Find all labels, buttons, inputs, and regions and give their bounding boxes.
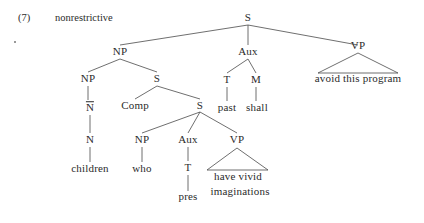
terminal-vp-main: avoid this program — [315, 73, 402, 85]
node-vp-embedded: VP — [230, 134, 244, 146]
terminal-children: children — [71, 163, 109, 175]
node-root-s: S — [245, 12, 251, 24]
terminal-past: past — [218, 102, 237, 114]
node-aux-embedded: Aux — [178, 134, 198, 146]
node-vp-main: VP — [351, 40, 365, 52]
node-np-subject: NP — [113, 46, 127, 58]
terminal-who: who — [132, 163, 152, 175]
node-t-embedded: T — [185, 162, 192, 174]
example-number: (7) — [18, 12, 30, 23]
example-caption: nonrestrictive — [55, 12, 113, 23]
node-s-embedded: S — [197, 100, 203, 112]
node-n-bar: N — [86, 102, 94, 114]
terminal-shall: shall — [246, 102, 268, 114]
node-np-inner: NP — [81, 73, 95, 85]
node-comp: Comp — [121, 100, 149, 112]
node-m-main: M — [251, 74, 261, 86]
node-aux-main: Aux — [238, 46, 258, 58]
node-n-head: N — [86, 134, 94, 146]
syntax-tree-figure: (7) nonrestrictive — [0, 0, 424, 223]
page-speck — [14, 41, 16, 43]
node-t-main: T — [224, 74, 231, 86]
node-np-embedded: NP — [135, 134, 149, 146]
node-s-relative: S — [154, 73, 160, 85]
terminal-vp-embedded-line2: imaginations — [210, 186, 269, 198]
terminal-vp-embedded-line1: have vivid — [214, 171, 262, 183]
terminal-pres: pres — [178, 191, 197, 203]
